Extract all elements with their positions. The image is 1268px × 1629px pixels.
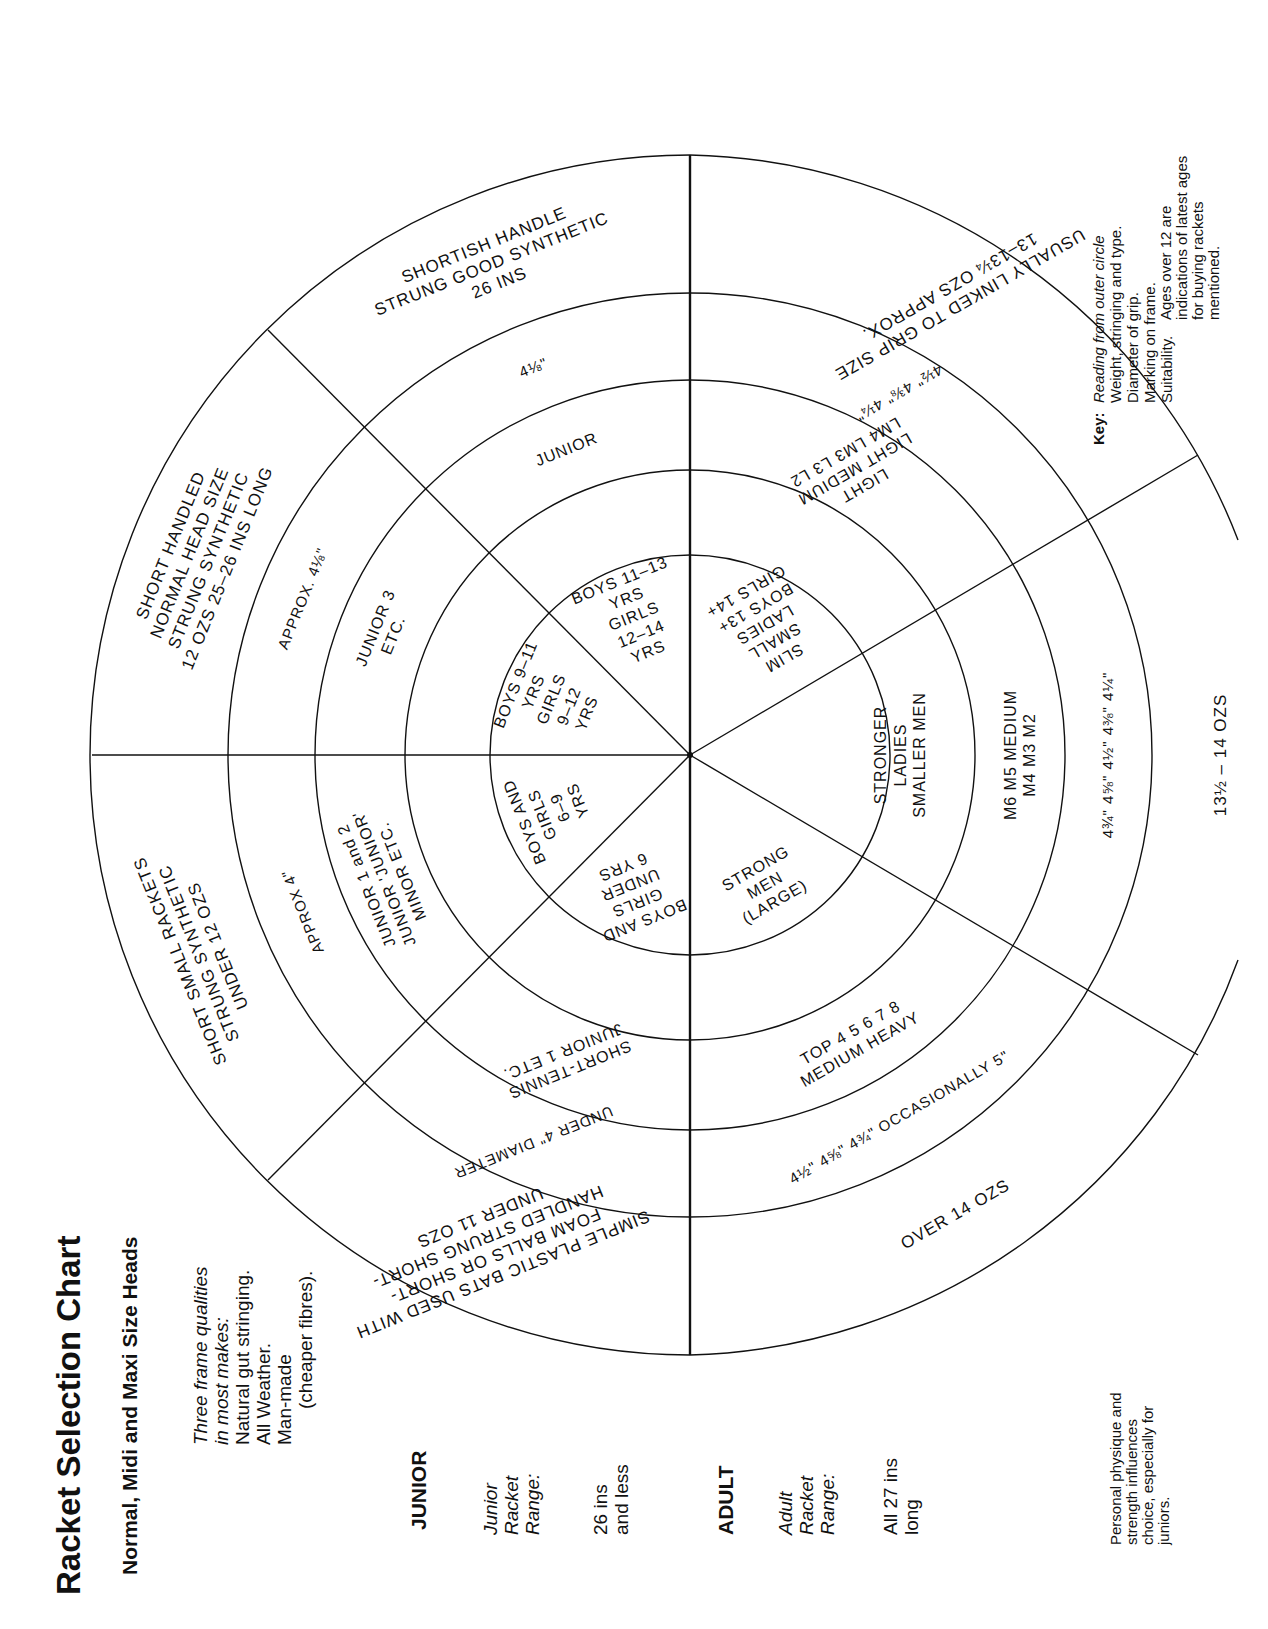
- adult-range-label-3: Range:: [817, 1474, 838, 1535]
- weight-label-line: 13½ – 14 OZS: [1211, 694, 1230, 817]
- junior-range-label-2: Racket: [501, 1474, 522, 1535]
- ages-note: Ages over 12 are indications of latest a…: [1158, 156, 1222, 320]
- marking-label: JUNIOR: [533, 429, 600, 469]
- weight-label: SHORT SMALL RACKETSSTRUNG SYNTHETICUNDER…: [130, 839, 269, 1068]
- grip-label: UNDER 4" DIAMETER: [452, 1103, 616, 1182]
- grip-label-line: APPROX. 4⅛": [274, 545, 330, 652]
- suitability-label: SLIMSMALLLADIESBOYS 13+GIRLS 14+: [703, 562, 827, 688]
- weight-label: SHORTISH HANDLESTRUNG GOOD SYNTHETIC26 I…: [364, 189, 619, 338]
- marking-label: SHORT-TENNISJUNIOR 1 ETC.: [499, 1020, 634, 1103]
- grip-label: APPROX. 4⅛": [274, 545, 330, 652]
- frame-qualities-heading-2: in most makes:: [211, 1267, 232, 1445]
- grip-label: 4⅛": [517, 354, 550, 381]
- ages-note-line: indications of latest ages: [1174, 156, 1190, 320]
- adult-range-value: All 27 ins long: [880, 1458, 922, 1535]
- weight-label-line: USUALLY LINKED TO GRIP SIZE: [832, 225, 1089, 384]
- marking-label-line: JUNIOR: [533, 429, 600, 469]
- weight-label-line: 13–13¼ OZS APPROX.: [859, 229, 1040, 345]
- physique-note-line: choice, especially for: [1140, 1392, 1156, 1545]
- grip-label: APPROX 4": [278, 867, 327, 956]
- key-label: Key:: [1090, 403, 1175, 445]
- weight-label: SIMPLE PLASTIC BATS USED WITHFOAM BALLS …: [330, 1150, 652, 1342]
- key-line: Diameter of grip.: [1124, 226, 1141, 403]
- grip-label: 4½" 4⅜" 4¼": [852, 361, 945, 425]
- key-line: Marking on frame.: [1141, 226, 1158, 403]
- suitability-label: BOYS ANDGIRLSUNDER6 YRS: [578, 843, 689, 946]
- junior-range-value-2: and less: [611, 1464, 632, 1535]
- frame-quality-item: All Weather.: [253, 1267, 274, 1445]
- frame-qualities-heading-1: Three frame qualities: [190, 1267, 211, 1445]
- subtitle-block: Normal, Midi and Maxi Size Heads: [118, 1237, 142, 1575]
- title-block: Racket Selection Chart: [50, 1236, 88, 1595]
- marking-label-line: M4 M3 M2: [1021, 713, 1038, 797]
- suitability-label: BOYS ANDGIRLS6–9YRS: [500, 756, 603, 867]
- suitability-label: BOYS 9–11YRSGIRLS9–12YRS: [490, 638, 612, 759]
- adult-heading: ADULT: [715, 1465, 736, 1535]
- suitability-label-line: LADIES: [892, 724, 909, 787]
- ages-note-line: Ages over 12 are: [1158, 156, 1174, 320]
- junior-section: JUNIOR: [408, 1451, 429, 1530]
- frame-quality-item: Natural gut stringing.: [232, 1267, 253, 1445]
- physique-note-line: strength influences: [1124, 1392, 1140, 1545]
- weight-label: SHORT HANDLEDNORMAL HEAD SIZESTRUNG SYNT…: [121, 441, 277, 673]
- key-line: Weight, stringing and type.: [1107, 226, 1124, 403]
- adult-range-label-1: Adult: [775, 1474, 796, 1535]
- grip-label-line: 4½" 4⅜" 4¼": [852, 361, 945, 425]
- physique-note: Personal physique and strength influence…: [1108, 1392, 1172, 1545]
- junior-range-value: 26 ins and less: [590, 1464, 632, 1535]
- junior-range-label-1: Junior: [480, 1474, 501, 1535]
- junior-range-label: Junior Racket Range:: [480, 1474, 543, 1535]
- weight-label: OVER 14 OZS: [897, 1175, 1013, 1253]
- frame-quality-item: Man-made: [274, 1267, 295, 1445]
- suitability-label-line: SMALLER MEN: [911, 692, 928, 818]
- marking-label: JUNIOR 1 and 2JUNIOR 'JUNIOR'MINOR ETC.: [331, 801, 437, 956]
- grip-label-line: UNDER 4" DIAMETER: [452, 1103, 616, 1182]
- marking-label: JUNIOR 3ETC.: [352, 587, 416, 676]
- adult-section: ADULT: [715, 1465, 736, 1535]
- ages-note-line: for buying rackets: [1190, 156, 1206, 320]
- junior-heading: JUNIOR: [408, 1451, 429, 1530]
- suitability-label-line: STRONGER: [872, 706, 889, 805]
- page-subtitle: Normal, Midi and Maxi Size Heads: [118, 1237, 142, 1575]
- marking-label: M6 M5 MEDIUMM4 M3 M2: [1002, 690, 1038, 820]
- marking-label: TOP 4 5 6 7 8MEDIUM HEAVY: [788, 992, 922, 1091]
- physique-note-line: juniors.: [1156, 1392, 1172, 1545]
- suitability-label: BOYS 11–13YRSGIRLS12–14YRS: [569, 553, 699, 678]
- adult-range-label: Adult Racket Range:: [775, 1474, 838, 1535]
- weight-label: 13½ – 14 OZS: [1211, 694, 1230, 817]
- frame-qualities: Three frame qualities in most makes: Nat…: [190, 1267, 316, 1445]
- grip-label-line: 4⅛": [517, 354, 550, 381]
- junior-range-value-1: 26 ins: [590, 1464, 611, 1535]
- adult-range-value-2: long: [901, 1458, 922, 1535]
- junior-range-label-3: Range:: [522, 1474, 543, 1535]
- physique-note-line: Personal physique and: [1108, 1392, 1124, 1545]
- marking-label-line: M6 M5 MEDIUM: [1002, 690, 1019, 820]
- adult-range-value-1: All 27 ins: [880, 1458, 901, 1535]
- weight-label: USUALLY LINKED TO GRIP SIZE13–13¼ OZS AP…: [821, 207, 1088, 384]
- grip-label-line: APPROX 4": [278, 867, 327, 956]
- weight-label-line: OVER 14 OZS: [897, 1175, 1013, 1253]
- marking-label: LIGHTLIGHT MEDIUMLM4 LM3 L3 L2: [786, 413, 925, 525]
- ages-note-line: mentioned.: [1206, 156, 1222, 320]
- suitability-label: STRONGMEN(LARGE): [719, 842, 811, 927]
- adult-range-label-2: Racket: [796, 1474, 817, 1535]
- grip-label: 4¾" 4⅝" 4½" 4⅜" 4¼": [1099, 672, 1116, 839]
- grip-label-line: 4¾" 4⅝" 4½" 4⅜" 4¼": [1099, 672, 1116, 839]
- weight-label-line: STRUNG GOOD SYNTHETIC: [372, 208, 611, 319]
- suitability-label: STRONGERLADIESSMALLER MEN: [872, 692, 927, 818]
- frame-quality-item: (cheaper fibres).: [295, 1267, 316, 1445]
- page-title: Racket Selection Chart: [50, 1236, 88, 1595]
- key-line: Reading from outer circle: [1090, 226, 1107, 403]
